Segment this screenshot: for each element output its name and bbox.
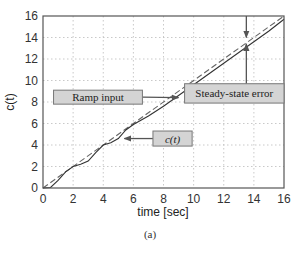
x-tick-label: 6: [130, 192, 137, 206]
x-tick-label: 2: [70, 192, 77, 206]
x-tick-label: 12: [217, 192, 231, 206]
ct-label: c(t): [165, 133, 181, 146]
tick-labels: 02468101214160246810121416: [25, 9, 291, 206]
y-tick-label: 4: [31, 138, 38, 152]
y-axis-label: c(t): [3, 93, 17, 110]
figure-caption: (a): [144, 228, 157, 241]
y-tick-label: 2: [31, 160, 38, 174]
ramp-input-arrow: [142, 97, 178, 98]
x-axis-label: time [sec]: [137, 205, 188, 219]
x-tick-label: 14: [247, 192, 261, 206]
annotations: Ramp inputc(t)Steady-state error: [54, 16, 284, 146]
y-tick-label: 6: [31, 117, 38, 131]
x-tick-label: 4: [100, 192, 107, 206]
x-tick-label: 8: [160, 192, 167, 206]
x-tick-label: 10: [187, 192, 201, 206]
y-tick-label: 16: [25, 9, 39, 23]
y-tick-label: 12: [25, 52, 39, 66]
y-tick-label: 10: [25, 74, 39, 88]
ramp-input-label: Ramp input: [72, 91, 124, 103]
y-tick-label: 14: [25, 31, 39, 45]
steady-state-error-label: Steady-state error: [195, 87, 273, 99]
y-tick-label: 0: [31, 181, 38, 195]
x-tick-label: 0: [40, 192, 47, 206]
ramp-response-chart: 02468101214160246810121416 Ramp inputc(t…: [0, 0, 301, 256]
x-tick-label: 16: [277, 192, 291, 206]
y-tick-label: 8: [31, 95, 38, 109]
